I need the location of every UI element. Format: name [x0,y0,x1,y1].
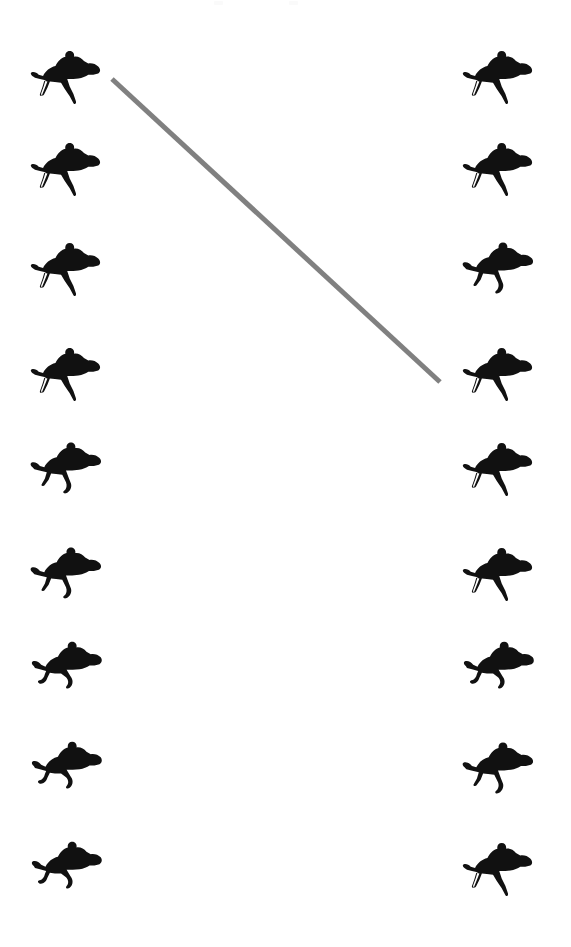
horse-jockey-silhouette-icon [28,545,104,607]
horse-jockey-silhouette-icon [460,48,536,110]
horse-jockey-silhouette-icon [28,740,104,802]
page-canvas [0,0,571,947]
right-horse-3 [460,240,536,302]
horse-jockey-silhouette-icon [28,240,104,302]
horse-jockey-silhouette-icon [28,640,104,702]
right-horse-9 [460,840,536,902]
right-horse-8 [460,740,536,802]
horse-jockey-silhouette-icon [28,345,104,407]
horse-jockey-silhouette-icon [28,48,104,110]
faint-mark-left-icon [214,1,223,5]
horse-jockey-silhouette-icon [460,840,536,902]
left-horse-9 [28,840,104,902]
horse-jockey-silhouette-icon [460,740,536,802]
horse-jockey-silhouette-icon [28,140,104,202]
left-horse-1 [28,48,104,110]
right-horse-5 [460,440,536,502]
left-horse-4 [28,345,104,407]
faint-mark-right-icon [289,1,298,5]
right-horse-2 [460,140,536,202]
left-horse-6 [28,545,104,607]
horse-jockey-silhouette-icon [460,440,536,502]
left-horse-2 [28,140,104,202]
horse-jockey-silhouette-icon [28,840,104,902]
horse-jockey-silhouette-icon [460,240,536,302]
right-horse-7 [460,640,536,702]
right-horse-4 [460,345,536,407]
right-horse-6 [460,545,536,607]
left-horse-5 [28,440,104,502]
horse-jockey-silhouette-icon [460,640,536,702]
horse-jockey-silhouette-icon [460,140,536,202]
left-horse-3 [28,240,104,302]
diagonal-connector-line[interactable] [112,79,440,382]
left-horse-7 [28,640,104,702]
right-horse-1 [460,48,536,110]
horse-jockey-silhouette-icon [28,440,104,502]
horse-jockey-silhouette-icon [460,345,536,407]
left-horse-8 [28,740,104,802]
horse-jockey-silhouette-icon [460,545,536,607]
